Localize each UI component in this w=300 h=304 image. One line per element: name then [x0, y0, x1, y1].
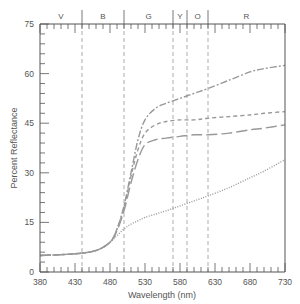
band-divider-lines	[82, 10, 208, 272]
x-axis-ticks: 380430480530580630680730	[33, 24, 292, 287]
y-tick-label: 45	[25, 118, 35, 128]
color-band-labels: VBGYOR	[58, 12, 249, 21]
x-tick-label: 480	[103, 277, 117, 287]
band-label: Y	[177, 12, 183, 21]
x-tick-label: 730	[278, 277, 292, 287]
axes	[40, 24, 285, 272]
x-tick-label: 380	[33, 277, 47, 287]
x-tick-label: 680	[243, 277, 257, 287]
band-label: R	[244, 12, 250, 21]
data-series	[40, 65, 285, 255]
y-axis-ticks: 01530456075	[25, 19, 49, 277]
y-tick-label: 0	[29, 267, 34, 277]
x-tick-label: 580	[173, 277, 187, 287]
x-axis-label: Wavelength (nm)	[128, 290, 196, 300]
reflectance-chart: VBGYOR 380430480530580630680730 01530456…	[0, 0, 300, 304]
x-tick-label: 630	[208, 277, 222, 287]
series-line-dashdot	[40, 65, 285, 255]
band-label: G	[145, 12, 151, 21]
y-tick-label: 15	[25, 217, 35, 227]
series-line-dotted	[40, 160, 285, 256]
x-tick-label: 430	[68, 277, 82, 287]
x-tick-label: 530	[138, 277, 152, 287]
series-line-dashed	[40, 112, 285, 256]
y-axis-label: Percent Reflectance	[9, 107, 19, 188]
y-tick-label: 30	[25, 168, 35, 178]
band-label: O	[194, 12, 200, 21]
band-label: B	[100, 12, 105, 21]
y-tick-label: 60	[25, 69, 35, 79]
y-tick-label: 75	[25, 19, 35, 29]
series-line-longdash	[40, 125, 285, 256]
band-label: V	[58, 12, 64, 21]
